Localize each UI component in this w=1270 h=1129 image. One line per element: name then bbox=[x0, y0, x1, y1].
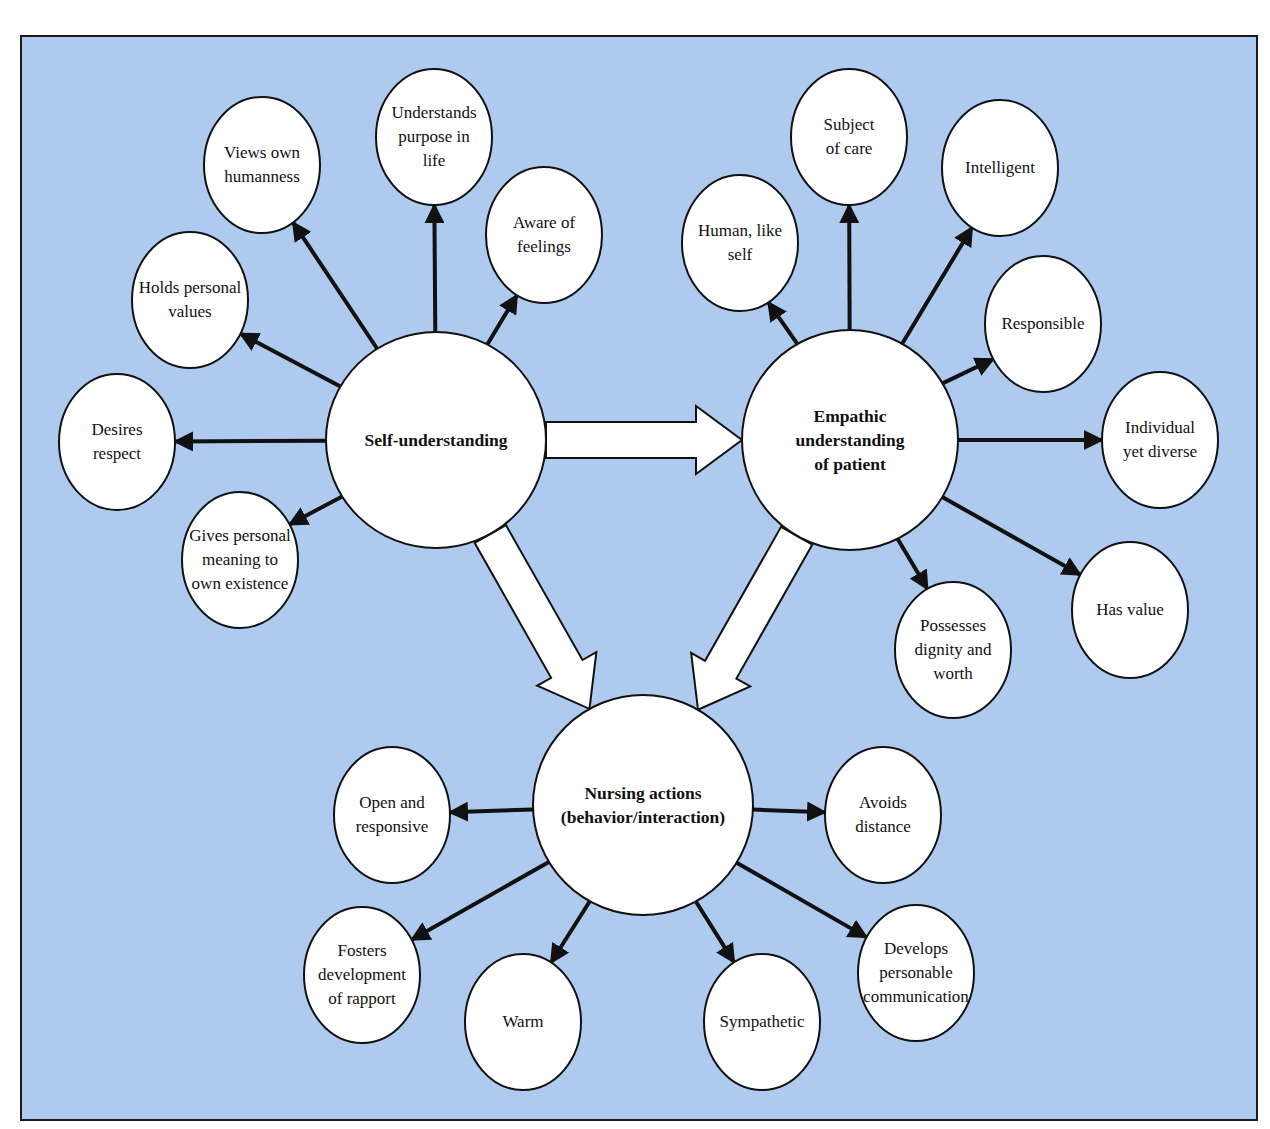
node-individual-yet-diverse bbox=[1102, 372, 1218, 508]
arrow-views-own-humanness bbox=[293, 222, 377, 348]
node-warm bbox=[465, 954, 581, 1090]
arrow-holds-personal-values bbox=[240, 334, 340, 387]
node-subject-of-care bbox=[791, 69, 907, 205]
node-sympathetic bbox=[704, 954, 820, 1090]
node-gives-personal-meaning bbox=[182, 492, 298, 628]
arrow-sympathetic bbox=[696, 901, 734, 962]
arrow-aware-of-feelings bbox=[487, 295, 517, 344]
node-holds-personal-values bbox=[132, 232, 248, 368]
arrow-understands-purpose bbox=[434, 205, 435, 332]
arrow-develops-communication bbox=[737, 863, 867, 938]
node-has-value bbox=[1072, 542, 1188, 678]
node-understands-purpose bbox=[376, 69, 492, 205]
flow-arrow-self-to-nursing bbox=[475, 525, 597, 709]
node-develops-communication bbox=[858, 905, 974, 1041]
node-desires-respect bbox=[59, 374, 175, 510]
arrow-avoids-distance bbox=[753, 810, 825, 813]
arrow-responsible bbox=[943, 359, 994, 383]
arrow-possesses-dignity bbox=[898, 539, 928, 589]
hub-self bbox=[326, 332, 546, 548]
arrow-open-and-responsive bbox=[450, 809, 533, 812]
hub-nursing bbox=[533, 695, 753, 915]
node-open-and-responsive bbox=[334, 747, 450, 883]
arrow-warm bbox=[551, 901, 590, 962]
node-responsible bbox=[985, 256, 1101, 392]
arrow-gives-personal-meaning bbox=[289, 496, 342, 524]
arrow-human-like-self bbox=[768, 302, 797, 344]
arrow-desires-respect bbox=[175, 441, 326, 442]
arrow-intelligent bbox=[902, 228, 972, 344]
node-aware-of-feelings bbox=[486, 167, 602, 303]
flow-arrow-empathic-to-nursing bbox=[691, 527, 812, 710]
node-fosters-rapport bbox=[304, 907, 420, 1043]
node-human-like-self bbox=[682, 175, 798, 311]
concept-diagram bbox=[0, 0, 1270, 1129]
node-intelligent bbox=[942, 100, 1058, 236]
node-avoids-distance bbox=[825, 747, 941, 883]
arrow-has-value bbox=[942, 497, 1080, 575]
flow-arrow-self-to-empathic bbox=[546, 406, 742, 474]
node-possesses-dignity bbox=[895, 582, 1011, 718]
node-views-own-humanness bbox=[204, 97, 320, 233]
arrow-fosters-rapport bbox=[412, 862, 549, 940]
node-circles bbox=[59, 69, 1218, 1090]
hub-empathic bbox=[742, 330, 958, 550]
